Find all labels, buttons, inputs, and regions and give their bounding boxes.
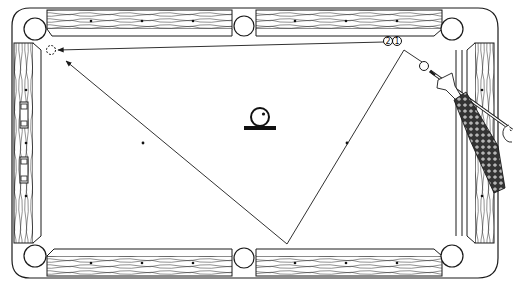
table-drawing xyxy=(0,0,522,287)
pocket-bottom-right xyxy=(441,245,463,267)
ball-markers: 21 xyxy=(383,36,401,46)
left-rail xyxy=(14,43,41,243)
bottom-rail-left xyxy=(47,249,232,276)
pocket-top-right xyxy=(441,18,463,40)
marker-1: 1 xyxy=(392,36,402,46)
billiards-diagram: 21 xyxy=(0,0,522,287)
table-frame xyxy=(12,8,498,278)
pocket-bottom-middle xyxy=(234,248,254,268)
head-spot xyxy=(142,142,145,145)
top-rail-left xyxy=(47,10,232,36)
score-bead-lower xyxy=(20,157,28,183)
score-bead-upper xyxy=(20,102,28,128)
top-rail-right xyxy=(256,10,442,36)
cue-ball-icon xyxy=(420,62,429,71)
pocket-bottom-left xyxy=(24,245,46,267)
bottom-rail-right xyxy=(256,249,442,276)
pocket-top-middle xyxy=(234,16,254,36)
pocket-top-left xyxy=(24,18,46,40)
